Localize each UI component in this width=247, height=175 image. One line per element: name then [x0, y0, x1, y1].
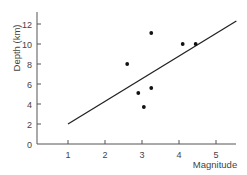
scatter-chart: 024681012 12345 Depth (km) Magnitude — [0, 0, 247, 175]
axes — [37, 12, 236, 144]
y-tick-label: 2 — [27, 120, 32, 130]
data-point — [136, 91, 140, 95]
y-tick-label: 6 — [27, 80, 32, 90]
trend-line — [68, 21, 236, 124]
y-axis-ticks: 024681012 — [22, 20, 41, 150]
data-point — [149, 31, 153, 35]
y-tick-label: 8 — [27, 60, 32, 70]
regression-line — [68, 21, 236, 124]
data-point — [125, 62, 129, 66]
data-point — [142, 105, 146, 109]
y-tick-label: 4 — [27, 100, 32, 110]
x-tick-label: 3 — [139, 150, 144, 160]
x-tick-label: 2 — [102, 150, 107, 160]
data-point — [181, 42, 185, 46]
y-tick-label: 0 — [27, 140, 32, 150]
data-point — [149, 86, 153, 90]
y-axis-title: Depth (km) — [11, 25, 22, 72]
data-point — [194, 42, 198, 46]
x-axis-title: Magnitude — [193, 159, 237, 170]
x-axis-ticks: 12345 — [65, 140, 218, 160]
x-tick-label: 4 — [176, 150, 181, 160]
data-points — [125, 31, 197, 109]
y-tick-label: 10 — [22, 40, 32, 50]
y-tick-label: 12 — [22, 20, 32, 30]
x-tick-label: 1 — [65, 150, 70, 160]
